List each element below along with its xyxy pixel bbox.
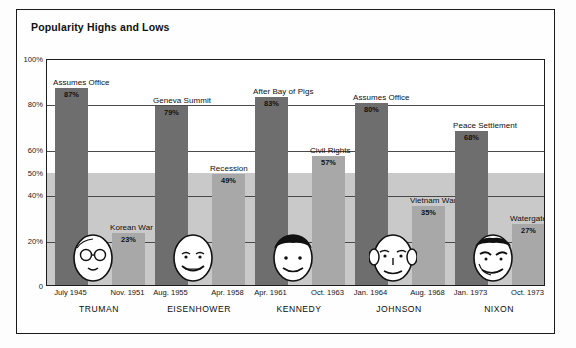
x-axis-date: Jan. 1973 [454, 288, 487, 297]
x-axis-president-name: KENNEDY [276, 304, 321, 314]
bar-nixon-low: 27% [512, 224, 545, 285]
y-axis-tick: 50% [28, 168, 43, 177]
bar-eisenhower-low: 49% [212, 174, 245, 285]
bar-truman-low: 23% [112, 233, 145, 285]
x-axis-date: July 1945 [54, 288, 87, 297]
bar-annotation-label: Assumes Office [53, 78, 110, 87]
gridline [47, 105, 544, 106]
y-axis-tick: 60% [28, 145, 43, 154]
bar-kennedy-low: 57% [312, 156, 345, 285]
bar-annotation-label: Watergate [510, 214, 545, 223]
plot-area: 87%Assumes Office23%Korean War 79%Geneva… [46, 59, 545, 286]
x-axis-president-name: JOHNSON [376, 304, 422, 314]
x-axis-date: Apr. 1958 [211, 288, 244, 297]
bar-nixon-high: 68% [455, 131, 488, 285]
bar-value-label: 83% [255, 99, 288, 108]
page-title: Popularity Highs and Lows [31, 21, 170, 33]
bar-value-label: 57% [312, 158, 345, 167]
bar-annotation-label: Geneva Summit [153, 96, 211, 105]
x-axis-date: Nov. 1951 [110, 288, 144, 297]
bar-eisenhower-high: 79% [155, 106, 188, 285]
bar-value-label: 68% [455, 133, 488, 142]
x-axis-date: Oct. 1973 [511, 288, 544, 297]
x-axis-president-name: EISENHOWER [167, 304, 231, 314]
bar-annotation-label: Recession [210, 164, 248, 173]
bar-johnson-low: 35% [412, 206, 445, 285]
bar-value-label: 27% [512, 226, 545, 235]
y-axis: 100%80%60%50%40%20%0 [8, 59, 43, 286]
x-axis-president-name: TRUMAN [79, 304, 119, 314]
x-axis-date: Apr. 1961 [254, 288, 287, 297]
x-axis-date: Oct. 1963 [311, 288, 344, 297]
bar-annotation-label: Assumes Office [353, 93, 410, 102]
x-axis-date: Aug. 1968 [410, 288, 445, 297]
x-axis-date: Jan. 1964 [354, 288, 387, 297]
bar-annotation-label: Vietnam War [410, 196, 456, 205]
y-axis-tick: 0 [39, 282, 43, 291]
x-axis-president-name: NIXON [484, 304, 514, 314]
y-axis-tick: 40% [28, 191, 43, 200]
bar-annotation-label: After Bay of Pigs [253, 87, 313, 96]
y-axis-tick: 80% [28, 100, 43, 109]
x-axis-date: Aug. 1955 [153, 288, 188, 297]
bar-value-label: 79% [155, 108, 188, 117]
bar-value-label: 80% [355, 105, 388, 114]
bar-johnson-high: 80% [355, 103, 388, 285]
bar-truman-high: 87% [55, 88, 88, 285]
chart-page: Popularity Highs and Lows 100%80%60%50%4… [0, 0, 576, 348]
bar-kennedy-high: 83% [255, 97, 288, 285]
bar-value-label: 87% [55, 90, 88, 99]
bar-value-label: 49% [212, 176, 245, 185]
x-axis: July 1945Nov. 1951TRUMANAug. 1955Apr. 19… [46, 288, 545, 334]
bar-value-label: 23% [112, 235, 145, 244]
y-axis-tick: 100% [24, 55, 43, 64]
bar-value-label: 35% [412, 208, 445, 217]
bar-annotation-label: Peace Settlement [453, 121, 517, 130]
y-axis-tick: 20% [28, 236, 43, 245]
bar-annotation-label: Korean War [110, 223, 153, 232]
bar-annotation-label: Civil Rights [310, 146, 351, 155]
